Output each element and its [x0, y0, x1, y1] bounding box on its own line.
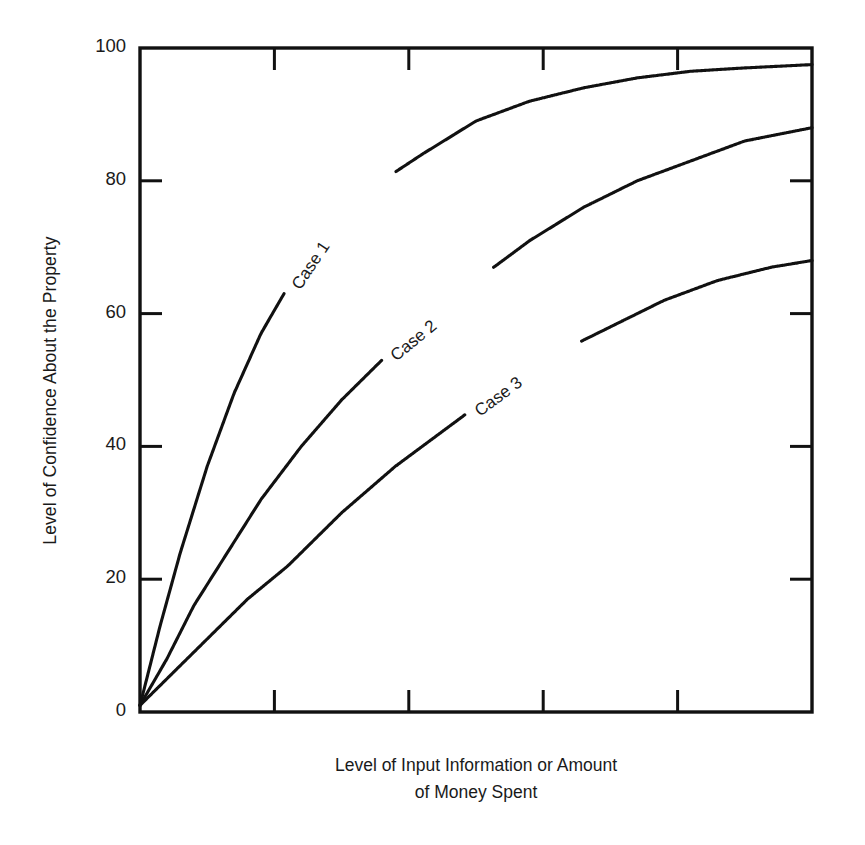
curve-case-1-seg2 — [396, 65, 812, 172]
curve-case-2-seg1 — [140, 360, 382, 705]
curve-case-2-seg2 — [494, 128, 812, 268]
x-axis-title-line-2: of Money Spent — [140, 779, 812, 806]
curve-case-3-seg2 — [582, 260, 812, 341]
curve-case-3-seg1 — [140, 415, 465, 706]
chart-figure: Level of Confidence About the Property 1… — [0, 0, 865, 845]
data-curves — [140, 65, 812, 706]
x-axis-title-line-1: Level of Input Information or Amount — [335, 755, 617, 775]
x-axis-title: Level of Input Information or Amount of … — [140, 752, 812, 806]
plot-area — [0, 0, 865, 845]
